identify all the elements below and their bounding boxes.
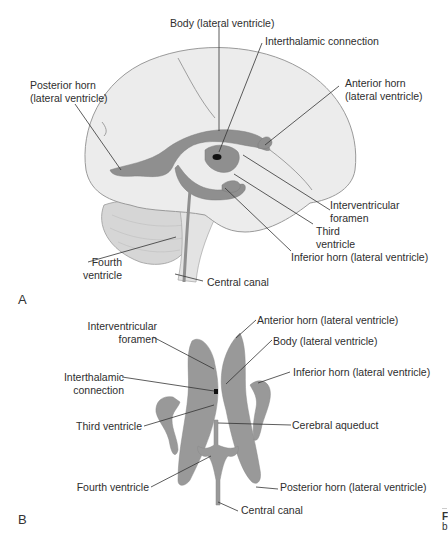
interthalamic-connection-dot <box>213 154 222 160</box>
label-a-interthalamic: Interthalamic connection <box>265 35 379 48</box>
label-a-interventricular-line1: Interventricular <box>330 199 399 212</box>
label-b-fourth: Fourth ventricle <box>50 481 149 494</box>
label-b-inferior-horn: Inferior horn (lateral ventricle) <box>293 366 430 379</box>
label-a-body: Body (lateral ventricle) <box>170 17 274 30</box>
label-b-interventricular-line1: Interventricular <box>72 320 157 333</box>
panel-b-illustration <box>156 333 270 505</box>
caption-fragment: F b <box>442 512 448 532</box>
label-a-posterior-horn-line2: (lateral ventricle) <box>30 92 108 105</box>
label-a-anterior-horn-line1: Anterior horn <box>345 77 406 90</box>
label-a-fourth-line1: Fourth <box>78 256 122 269</box>
label-a-third-line2: ventricle <box>316 238 355 251</box>
label-b-anterior-horn: Anterior horn (lateral ventricle) <box>257 314 398 327</box>
caption-fragment-line2: b <box>442 522 448 532</box>
label-b-interventricular-line2: foramen <box>72 333 157 346</box>
label-b-third: Third ventricle <box>50 420 142 433</box>
caption-rule <box>442 508 447 509</box>
panel-a-letter: A <box>18 292 27 307</box>
label-b-interthalamic-line2: connection <box>40 384 124 397</box>
label-a-third-line1: Third <box>316 225 340 238</box>
label-a-inferior-horn: Inferior horn (lateral ventricle) <box>291 251 428 264</box>
panel-b-letter: B <box>18 512 27 527</box>
label-b-central-canal: Central canal <box>241 504 303 517</box>
panel-b-interthalamic-dot <box>214 389 218 394</box>
label-a-posterior-horn-line1: Posterior horn <box>30 79 96 92</box>
label-a-anterior-horn-line2: (lateral ventricle) <box>345 90 423 103</box>
label-b-cerebral-aqueduct: Cerebral aqueduct <box>292 419 378 432</box>
label-a-interventricular-line2: foramen <box>330 212 369 225</box>
label-b-posterior-horn: Posterior horn (lateral ventricle) <box>280 481 426 494</box>
label-b-body: Body (lateral ventricle) <box>273 335 377 348</box>
label-b-interthalamic-line1: Interthalamic <box>40 371 124 384</box>
label-a-central-canal: Central canal <box>207 276 269 289</box>
label-a-fourth-line2: ventricle <box>72 269 122 282</box>
